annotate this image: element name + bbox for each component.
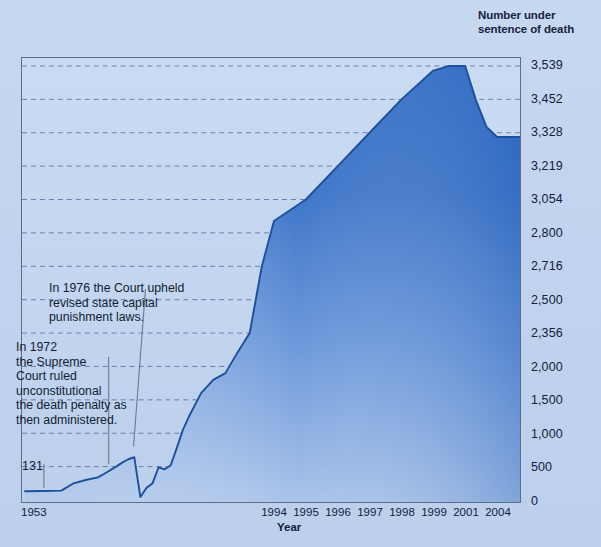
y-tick-label: 2,000 [531,360,563,374]
y-tick-label: 2,716 [531,259,563,273]
annotation-1972: In 1972 the Supreme Court ruled unconsti… [16,340,136,428]
x-tick-label: 1996 [325,506,351,518]
y-tick-label: 2,356 [531,326,563,340]
y-tick-label: 0 [531,494,538,508]
x-tick-label: 2004 [485,506,511,518]
area-series [22,58,520,502]
x-tick-label: 1995 [293,506,319,518]
y-tick-label: 1,500 [531,393,563,407]
y-axis-heading: Number under sentence of death [478,8,598,36]
y-tick-label: 2,800 [531,226,563,240]
y-tick-label: 3,054 [531,192,563,206]
y-tick-label: 3,452 [531,92,563,106]
annotation-1976: In 1976 the Court upheld revised state c… [49,281,209,325]
x-tick-label: 1998 [389,506,415,518]
chart-plot-area [21,57,521,503]
y-tick-label: 3,219 [531,159,563,173]
y-axis-heading-line2: sentence of death [478,22,598,36]
x-tick-label: 1953 [21,506,47,518]
y-tick-label: 500 [531,460,552,474]
annotation-start-value: 131 [22,459,43,473]
x-tick-label: 1997 [357,506,383,518]
y-axis-heading-line1: Number under [478,8,598,22]
y-tick-label: 2,500 [531,293,563,307]
y-tick-label: 3,328 [531,125,563,139]
y-tick-label: 1,000 [531,427,563,441]
x-axis-title: Year [277,521,301,533]
y-tick-label: 3,539 [531,58,563,72]
x-tick-label: 1994 [261,506,287,518]
x-tick-label: 2001 [453,506,479,518]
x-tick-label: 1999 [421,506,447,518]
